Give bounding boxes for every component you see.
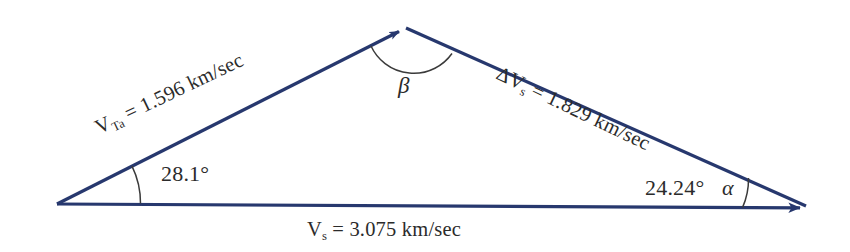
label-angle-left: 28.1° xyxy=(161,163,209,185)
label-vs-symbol: V xyxy=(307,218,322,240)
vector-vs-line xyxy=(57,204,800,208)
label-vs-subscript: s xyxy=(322,229,327,243)
label-vs-value: 3.075 xyxy=(349,218,396,240)
vector-triangle-svg xyxy=(0,0,850,252)
label-vs-units: km/sec xyxy=(397,218,462,240)
angle-arc-right xyxy=(743,178,749,208)
label-angle-right: 24.24° xyxy=(645,177,705,199)
label-beta: β xyxy=(398,74,410,97)
angle-arc-apex xyxy=(371,46,452,73)
label-vs: Vs = 3.075 km/sec xyxy=(307,219,461,240)
label-alpha: α xyxy=(722,177,734,199)
vector-triangle-diagram: VTa = 1.596 km/sec ΔVs = 1.829 km/sec Vs… xyxy=(0,0,850,252)
label-vs-equals: = xyxy=(327,218,349,240)
angle-arc-left xyxy=(132,166,141,203)
